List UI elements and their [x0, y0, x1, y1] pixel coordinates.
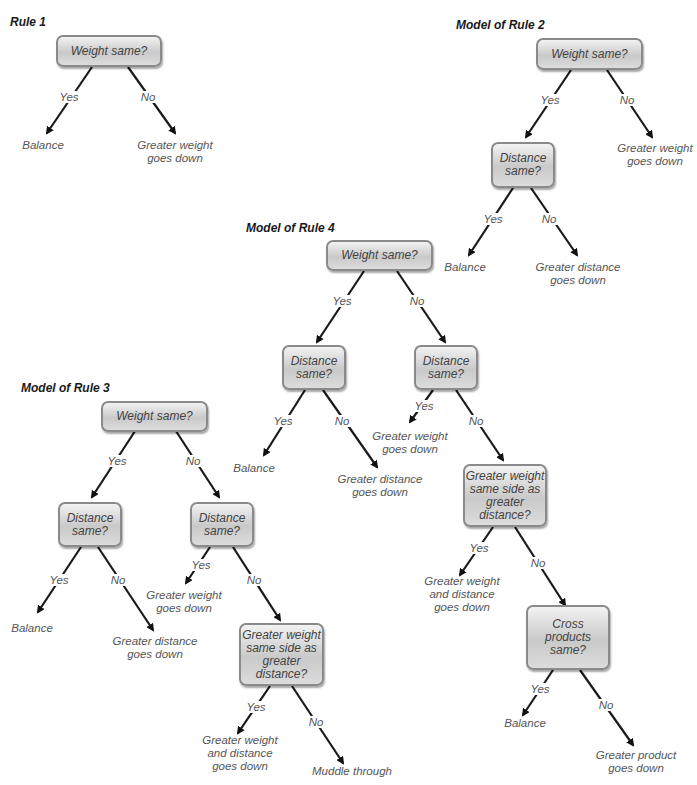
leaf-line: Greater distance — [337, 473, 422, 486]
leaf-line: goes down — [202, 760, 277, 773]
leaf-line: goes down — [146, 602, 221, 615]
rule4-title: Model of Rule 4 — [246, 221, 335, 235]
rule4-no-label: No — [409, 295, 426, 307]
leaf-line: goes down — [617, 155, 692, 168]
leaf-line: Greater distance — [535, 261, 620, 274]
rule2-yes-label: Yes — [539, 94, 560, 106]
rule3-right-distance-same-label: Distancesame? — [199, 512, 246, 538]
rule2-greater-weight-leaf: Greater weight goes down — [617, 142, 692, 168]
rule4-weight-same-node: Weight same? — [326, 240, 433, 271]
rule3-no-label: No — [185, 455, 202, 467]
rule4-cross-products-node: Cross productssame? — [526, 605, 610, 670]
rule1-no-label: No — [140, 91, 157, 103]
rule2-balance-leaf: Balance — [444, 261, 486, 274]
leaf-line: and distance — [424, 588, 499, 601]
rule3-right-distance-same-node: Distancesame? — [190, 502, 254, 547]
rule1-title: Rule 1 — [10, 15, 46, 29]
rule4-greater-product-leaf: Greater product goes down — [596, 749, 677, 775]
rule3-left-distance-same-label: Distancesame? — [67, 512, 114, 538]
leaf-line: goes down — [596, 762, 677, 775]
rule3-greater-distance-leaf: Greater distance goes down — [112, 635, 197, 661]
leaf-line: Greater weight — [372, 430, 447, 443]
leaf-line: Greater product — [596, 749, 677, 762]
rule4-greater-distance-leaf: Greater distance goes down — [337, 473, 422, 499]
rule3-weight-same-node: Weight same? — [101, 401, 208, 432]
leaf-line: goes down — [424, 601, 499, 614]
rule3-balance-leaf: Balance — [11, 622, 53, 635]
leaf-line: Greater weight — [202, 734, 277, 747]
rule3-same-side-no-label: No — [308, 716, 325, 728]
rule4-same-side-no-label: No — [530, 557, 547, 569]
rule1-yes-label: Yes — [58, 91, 79, 103]
leaf-line: Greater weight — [424, 575, 499, 588]
rule3-title: Model of Rule 3 — [21, 381, 110, 395]
rule3-greater-weight-leaf: Greater weight goes down — [146, 589, 221, 615]
rule1-weight-same-node: Weight same? — [56, 35, 162, 67]
rule1-weight-same-label: Weight same? — [71, 45, 147, 58]
rule3-yes-label: Yes — [106, 455, 127, 467]
rule4-cross-products-label: Cross productssame? — [528, 618, 608, 657]
rule4-same-side-node: Greater weightsame side asgreater distan… — [463, 464, 547, 527]
rule1-balance-leaf: Balance — [22, 139, 64, 152]
rule4-yes-label: Yes — [331, 295, 352, 307]
rule4-cross-yes-label: Yes — [529, 683, 550, 695]
rule4-same-side-label: Greater weightsame side asgreater distan… — [465, 470, 545, 522]
leaf-line: goes down — [372, 443, 447, 456]
rule2-title: Model of Rule 2 — [456, 18, 545, 32]
rule4-left-distance-same-label: Distancesame? — [291, 355, 338, 381]
leaf-line: goes down — [112, 648, 197, 661]
rule3-right-no-label: No — [246, 574, 263, 586]
rule3-weight-same-label: Weight same? — [116, 410, 192, 423]
rule3-left-distance-same-node: Distancesame? — [58, 502, 122, 547]
rule4-greater-weight-leaf: Greater weight goes down — [372, 430, 447, 456]
rule4-left-distance-same-node: Distancesame? — [282, 345, 346, 390]
rule3-same-side-node: Greater weightsame side asgreater distan… — [239, 623, 324, 686]
rule2-no-label: No — [619, 94, 636, 106]
rule2-greater-distance-leaf: Greater distance goes down — [535, 261, 620, 287]
rule4-right-no-label: No — [468, 415, 485, 427]
rule3-greater-weight-distance-leaf: Greater weight and distance goes down — [202, 734, 277, 773]
rule3-left-no-label: No — [110, 574, 127, 586]
leaf-line: goes down — [337, 486, 422, 499]
rule4-weight-same-label: Weight same? — [341, 249, 417, 262]
rule4-right-yes-label: Yes — [413, 400, 434, 412]
rule2-distance-no-label: No — [541, 213, 558, 225]
rule3-muddle-through-leaf: Muddle through — [312, 765, 392, 778]
rule4-same-side-yes-label: Yes — [468, 542, 489, 554]
leaf-line: Greater weight — [617, 142, 692, 155]
balance-scale-rule-diagrams: Rule 1 Weight same? Yes No Balance Great… — [0, 0, 697, 785]
leaf-line: goes down — [535, 274, 620, 287]
rule4-right-distance-same-node: Distancesame? — [414, 345, 478, 390]
rule4-balance-leaf-2: Balance — [504, 717, 546, 730]
rule2-distance-same-label: Distancesame? — [500, 152, 547, 178]
rule1-greater-weight-leaf: Greater weight goes down — [137, 139, 212, 165]
leaf-line: and distance — [202, 747, 277, 760]
rule2-weight-same-label: Weight same? — [551, 48, 627, 61]
rule4-greater-weight-distance-leaf: Greater weight and distance goes down — [424, 575, 499, 614]
rule4-left-yes-label: Yes — [272, 415, 293, 427]
leaf-line: goes down — [137, 152, 212, 165]
rule3-right-yes-label: Yes — [190, 559, 211, 571]
rule4-left-no-label: No — [334, 415, 351, 427]
rule3-same-side-label: Greater weightsame side asgreater distan… — [241, 629, 322, 681]
leaf-line: Greater distance — [112, 635, 197, 648]
rule2-distance-yes-label: Yes — [482, 213, 503, 225]
rule4-balance-leaf: Balance — [233, 462, 275, 475]
rule4-right-distance-same-label: Distancesame? — [423, 355, 470, 381]
rule2-distance-same-node: Distancesame? — [491, 142, 555, 188]
rule3-left-yes-label: Yes — [48, 574, 69, 586]
rule2-weight-same-node: Weight same? — [536, 38, 643, 70]
leaf-line: Greater weight — [146, 589, 221, 602]
leaf-line: Greater weight — [137, 139, 212, 152]
rule4-cross-no-label: No — [598, 699, 615, 711]
rule3-same-side-yes-label: Yes — [245, 701, 266, 713]
